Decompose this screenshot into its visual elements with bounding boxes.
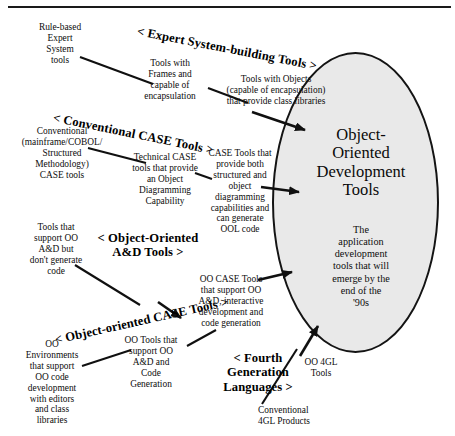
node-conventional-4gl-products: Conventional 4GL Products: [258, 405, 350, 427]
node-oo-case-tools: OO CASE Tools that support OO A&D, inter…: [185, 274, 277, 329]
node-tools-support-ooad-no-code: Tools that support OO A&D but don't gene…: [14, 222, 98, 277]
heading-object-oriented-ad-tools: < Object-Oriented A&D Tools >: [83, 231, 213, 260]
node-tools-with-objects: Tools with Objects (capable of encapsula…: [213, 74, 339, 107]
node-oo-tools-support: OO Tools that support OO A&D and Code Ge…: [110, 335, 192, 390]
node-tools-with-frames: Tools with Frames and capable of encapsu…: [126, 58, 214, 102]
ellipse-subtitle: The application development tools that w…: [311, 224, 411, 309]
diagram-canvas: < Expert System-building Tools > < Conve…: [0, 0, 455, 436]
node-case-tools-both: CASE Tools that provide both structured …: [198, 148, 282, 235]
node-oo-environments: OO Environments that support OO code dev…: [12, 339, 92, 426]
node-conventional-case-tools: Conventional (mainframe/COBOL/ Structure…: [6, 126, 118, 181]
node-oo-4gl-tools: OO 4GL Tools: [294, 357, 348, 379]
node-rule-based-expert-system-tools: Rule-based Expert System tools: [22, 22, 98, 66]
top-divider-rule: [8, 6, 451, 8]
heading-fourth-generation-languages: < Fourth Generation Languages >: [208, 351, 308, 394]
ellipse-title: Object- Oriented Development Tools: [300, 126, 422, 200]
